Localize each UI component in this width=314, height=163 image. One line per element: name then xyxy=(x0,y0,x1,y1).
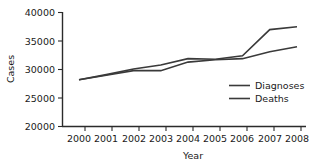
y-tick-label: 40000 xyxy=(25,7,55,18)
x-tick-label: 2000 xyxy=(67,133,91,144)
x-tick-label: 2008 xyxy=(285,133,309,144)
y-axis-title: Cases xyxy=(5,55,16,83)
x-axis-title: Year xyxy=(182,150,203,161)
y-tick-label: 25000 xyxy=(25,93,55,104)
y-tick-label: 20000 xyxy=(25,121,55,132)
y-tick-label: 30000 xyxy=(25,64,55,75)
chart-canvas: 20000 25000 30000 35000 40000 2000 2001 … xyxy=(0,0,314,163)
x-tick-label: 2003 xyxy=(149,133,173,144)
chart-legend: Diagnoses Deaths xyxy=(229,80,304,104)
legend-label-diagnoses: Diagnoses xyxy=(255,80,304,91)
x-tick-label: 2006 xyxy=(230,133,254,144)
y-tick-label: 35000 xyxy=(25,36,55,47)
x-tick-label: 2004 xyxy=(176,133,200,144)
y-tick-labels: 20000 25000 30000 35000 40000 xyxy=(25,7,55,132)
legend-label-deaths: Deaths xyxy=(255,93,289,104)
x-tick-label: 2002 xyxy=(122,133,146,144)
series-line-deaths xyxy=(79,47,297,80)
x-tick-labels: 2000 2001 2002 2003 2004 2005 2006 2007 … xyxy=(67,133,309,144)
x-tick-label: 2001 xyxy=(94,133,118,144)
x-tick-label: 2007 xyxy=(258,133,282,144)
x-tick-label: 2005 xyxy=(203,133,227,144)
line-chart: 20000 25000 30000 35000 40000 2000 2001 … xyxy=(0,0,314,163)
